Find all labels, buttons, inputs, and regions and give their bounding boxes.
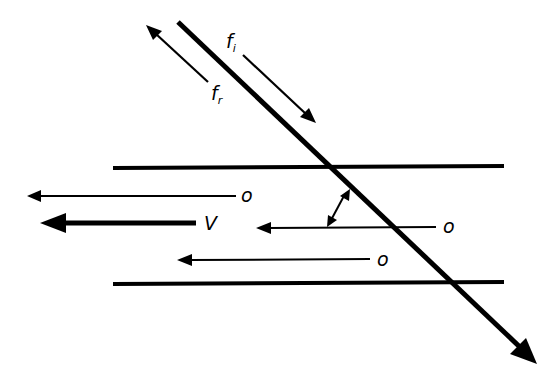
lower-vessel-wall bbox=[113, 282, 504, 284]
flow-arrow-top bbox=[27, 190, 236, 202]
doppler-diagram: fi fr o V o o bbox=[0, 0, 560, 370]
flow-arrowhead-icon bbox=[27, 190, 41, 202]
reflected-arrow bbox=[146, 25, 208, 82]
velocity-arrow bbox=[40, 213, 196, 233]
velocity-arrowhead-icon bbox=[40, 213, 66, 233]
origin-label-top: o bbox=[241, 184, 253, 206]
flow-arrow-middle bbox=[256, 222, 436, 234]
flow-arrow-bottom bbox=[177, 254, 370, 266]
origin-label-bottom: o bbox=[377, 248, 389, 270]
flow-arrowhead-icon bbox=[177, 254, 192, 266]
flow-arrowhead-icon bbox=[256, 222, 271, 234]
velocity-label: V bbox=[204, 212, 219, 234]
beam-arrow bbox=[178, 22, 537, 364]
incident-arrow bbox=[243, 55, 316, 123]
origin-label-middle: o bbox=[443, 215, 455, 237]
reflected-frequency-label: fr bbox=[211, 82, 224, 107]
incident-frequency-label: fi bbox=[226, 30, 236, 55]
angle-marker bbox=[327, 189, 350, 227]
upper-vessel-wall bbox=[113, 166, 504, 168]
